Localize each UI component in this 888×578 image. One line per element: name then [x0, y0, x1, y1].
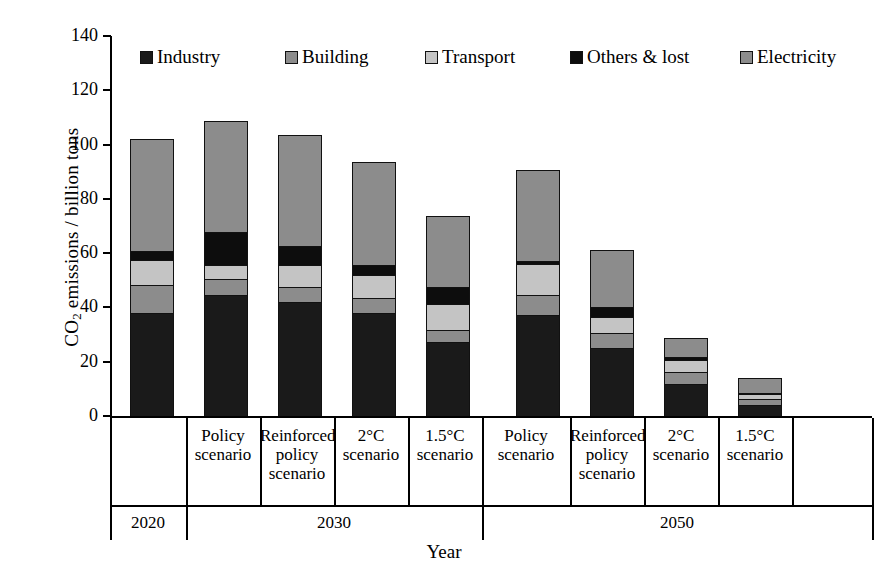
bar-segment-electricity [516, 170, 560, 261]
bar-segment-electricity [590, 250, 634, 307]
y-axis-tick-label: 80 [28, 189, 98, 207]
category-label-line: policy [570, 445, 644, 464]
y-axis-tick-label: 40 [28, 297, 98, 315]
bar-segment-transport [352, 275, 396, 298]
y-axis-title-main: CO [61, 320, 82, 347]
category-separator [872, 418, 874, 540]
category-label-9: 1.5°Cscenario [718, 426, 792, 464]
category-label-line: scenario [260, 464, 334, 483]
y-axis-tick-label: 100 [28, 135, 98, 153]
y-axis-title-rest: emissions / billion tons [61, 128, 82, 314]
bar-segment-electricity [278, 135, 322, 246]
legend-label: Electricity [757, 46, 836, 68]
y-axis-tick [103, 144, 111, 146]
legend-item-industry[interactable]: Industry [140, 46, 220, 68]
bar-9 [738, 378, 782, 417]
y-axis-tick-label: 0 [28, 406, 98, 424]
y-axis-tick [103, 361, 111, 363]
y-axis-tick [103, 35, 111, 37]
legend-label: Building [302, 46, 369, 68]
bar-segment-industry [516, 315, 560, 417]
category-label-line: scenario [334, 445, 408, 464]
legend-item-building[interactable]: Building [285, 46, 369, 68]
bar-3 [278, 135, 322, 417]
plot-area [112, 36, 872, 417]
bar-segment-industry [664, 384, 708, 417]
legend-swatch-transport-icon [425, 51, 438, 64]
legend-label: Industry [157, 46, 220, 68]
x-axis-baseline [110, 416, 872, 418]
bar-segment-others [352, 265, 396, 275]
y-axis-tick-label: 60 [28, 243, 98, 261]
category-label-line: 2°C [644, 426, 718, 445]
legend-item-transport[interactable]: Transport [425, 46, 515, 68]
bar-segment-others [130, 251, 174, 259]
bar-segment-building [516, 295, 560, 315]
group-divider [186, 505, 482, 507]
legend-item-others[interactable]: Others & lost [570, 46, 689, 68]
bar-6 [516, 170, 560, 417]
bar-segment-transport [590, 317, 634, 333]
bar-segment-transport [516, 264, 560, 295]
bar-segment-transport [278, 265, 322, 287]
group-label-2050: 2050 [482, 513, 872, 533]
bar-segment-transport [204, 265, 248, 279]
bar-segment-others [516, 261, 560, 264]
legend-swatch-industry-icon [140, 51, 153, 64]
category-label-6: Policyscenario [482, 426, 570, 464]
bar-segment-others [204, 232, 248, 265]
category-label-line: scenario [186, 445, 260, 464]
bar-segment-building [664, 372, 708, 384]
legend-swatch-others-icon [570, 51, 583, 64]
category-label-2: Policyscenario [186, 426, 260, 464]
bar-segment-transport [426, 304, 470, 330]
category-label-line: Reinforced [260, 426, 334, 445]
legend-item-electricity[interactable]: Electricity [740, 46, 836, 68]
x-axis-title: Year [0, 541, 888, 563]
bar-4 [352, 162, 396, 417]
bar-segment-transport [664, 360, 708, 372]
bar-segment-building [426, 330, 470, 342]
chart-container: CO2 emissions / billion tons 14012010080… [0, 0, 888, 578]
bar-segment-others [590, 307, 634, 317]
category-label-line: scenario [482, 445, 570, 464]
bar-segment-industry [590, 348, 634, 417]
bar-segment-others [664, 357, 708, 360]
bar-segment-building [130, 285, 174, 312]
bar-7 [590, 250, 634, 417]
bar-segment-transport [738, 394, 782, 399]
bar-2 [204, 121, 248, 417]
category-label-line: scenario [644, 445, 718, 464]
bar-5 [426, 216, 470, 417]
y-axis-tick-label: 120 [28, 80, 98, 98]
category-label-line: scenario [718, 445, 792, 464]
bar-segment-others [426, 287, 470, 305]
y-axis-tick-label: 140 [28, 26, 98, 44]
bar-segment-building [278, 287, 322, 302]
legend-swatch-electricity-icon [740, 51, 753, 64]
category-label-line: Reinforced [570, 426, 644, 445]
bar-segment-others [278, 246, 322, 265]
category-label-line: policy [260, 445, 334, 464]
legend-label: Others & lost [587, 46, 689, 68]
category-label-line: scenario [408, 445, 482, 464]
bar-1 [130, 139, 174, 417]
category-label-8: 2°Cscenario [644, 426, 718, 464]
bar-segment-others [738, 393, 782, 394]
group-label-2020: 2020 [110, 513, 186, 533]
bar-segment-building [352, 298, 396, 313]
legend-swatch-building-icon [285, 51, 298, 64]
bar-segment-building [738, 399, 782, 404]
bar-segment-electricity [204, 121, 248, 232]
category-label-line: Policy [186, 426, 260, 445]
y-axis-tick [103, 198, 111, 200]
category-label-7: Reinforcedpolicyscenario [570, 426, 644, 483]
bar-segment-building [590, 333, 634, 348]
bar-segment-industry [278, 302, 322, 417]
category-label-line: 1.5°C [408, 426, 482, 445]
y-axis-tick [103, 252, 111, 254]
group-divider [110, 505, 186, 507]
bar-segment-industry [426, 342, 470, 417]
y-axis-tick-label: 20 [28, 352, 98, 370]
bar-segment-electricity [130, 139, 174, 252]
